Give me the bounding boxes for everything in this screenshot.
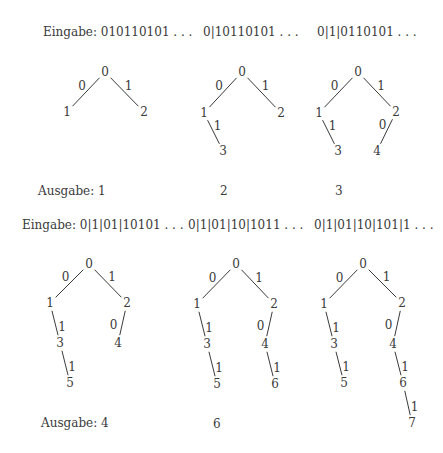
tree-node: 2 — [398, 296, 406, 310]
tree-node: 5 — [213, 377, 221, 391]
edge-label: 1 — [332, 321, 340, 335]
tree-node: 4 — [373, 144, 381, 158]
edge-label: 0 — [379, 118, 387, 132]
tree-node: 6 — [271, 377, 279, 391]
edge-label: 1 — [401, 360, 409, 374]
tree-node: 0 — [359, 257, 367, 271]
edge-label: 1 — [125, 79, 133, 93]
edge-label: 1 — [108, 270, 116, 284]
edge-label: 0 — [385, 318, 393, 332]
tree-edge — [336, 352, 342, 376]
tree-node: 1 — [320, 297, 328, 311]
tree-node: 1 — [193, 297, 201, 311]
tree-edge — [325, 78, 353, 107]
tree-node: 0 — [354, 65, 362, 79]
edge-label: 0 — [215, 79, 223, 93]
tree-node: 0 — [238, 65, 246, 79]
tree-node: 4 — [389, 337, 397, 351]
trie-tree: 0110110123456 — [193, 257, 281, 391]
trie-tree: 011001234 — [315, 65, 400, 158]
tree-edge — [267, 312, 272, 336]
tree-node: 2 — [392, 105, 400, 119]
tree-node: 3 — [334, 144, 342, 158]
tree-node: 1 — [200, 106, 208, 120]
trie-tree: 01101012345 — [46, 257, 131, 390]
tree-node: 7 — [408, 416, 416, 430]
tree-node: 2 — [277, 106, 285, 120]
tree-edge — [405, 391, 410, 415]
edge-label: 1 — [329, 119, 337, 133]
tree-node: 0 — [232, 257, 240, 271]
tree-node: 4 — [114, 336, 122, 350]
tree-node: 4 — [261, 337, 269, 351]
tree-edge — [52, 311, 58, 335]
tree-edge — [120, 311, 125, 335]
tree-node: 5 — [66, 376, 74, 390]
tree-node: 0 — [101, 65, 109, 79]
edge-label: 1 — [262, 79, 270, 93]
tree-edge — [209, 78, 236, 107]
edge-label: 0 — [336, 271, 344, 285]
edge-label: 1 — [214, 119, 222, 133]
edge-label: 0 — [62, 270, 70, 284]
tree-node: 3 — [219, 144, 227, 158]
edge-label: 0 — [209, 271, 217, 285]
tree-node: 2 — [123, 296, 131, 310]
tree-node: 1 — [315, 106, 323, 120]
tree-node: 3 — [56, 336, 64, 350]
tree-edge — [56, 270, 84, 298]
edge-label: 0 — [331, 79, 339, 93]
edge-label: 1 — [58, 320, 66, 334]
tree-edge — [267, 352, 273, 376]
tree-edge — [73, 78, 100, 106]
edge-label: 1 — [215, 361, 223, 375]
edge-label: 0 — [257, 319, 265, 333]
edge-label: 1 — [411, 400, 419, 414]
edge-label: 1 — [255, 271, 263, 285]
tree-edge — [395, 352, 401, 376]
tree-node: 0 — [85, 257, 93, 271]
tree-node: 3 — [330, 337, 338, 351]
edge-label: 1 — [383, 270, 391, 284]
edge-label: 0 — [78, 79, 86, 93]
edge-label: 1 — [205, 321, 213, 335]
trie-diagram: 0101201101230110012340110101234501101101… — [0, 0, 443, 453]
edge-label: 1 — [377, 79, 385, 93]
edge-label: 1 — [68, 360, 76, 374]
tree-node: 1 — [46, 296, 54, 310]
edge-label: 1 — [342, 360, 350, 374]
edge-label: 1 — [273, 361, 281, 375]
tree-node: 5 — [340, 376, 348, 390]
tree-node: 6 — [399, 376, 407, 390]
trie-tree: 01012 — [63, 65, 148, 119]
tree-edge — [330, 270, 358, 299]
tree-edge — [326, 312, 332, 336]
tree-node: 2 — [270, 297, 278, 311]
trie-tree: 011011101234567 — [320, 257, 418, 430]
tree-edge — [209, 352, 215, 376]
edge-label: 0 — [110, 318, 118, 332]
tree-node: 1 — [63, 105, 71, 119]
tree-edge — [199, 312, 205, 336]
tree-node: 3 — [203, 337, 211, 351]
tree-edge — [62, 351, 68, 375]
trie-tree: 0110123 — [200, 65, 285, 158]
tree-node: 2 — [140, 105, 148, 119]
tree-edge — [203, 270, 231, 299]
tree-edge — [395, 311, 401, 336]
